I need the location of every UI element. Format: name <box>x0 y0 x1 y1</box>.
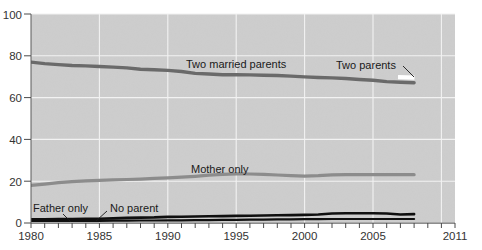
y-tick-label: 100 <box>3 9 22 21</box>
annotation-two-parents: Two parents <box>336 59 396 71</box>
y-tick-label: 60 <box>9 92 22 104</box>
y-tick-label: 80 <box>9 50 22 62</box>
y-tick-label: 20 <box>9 176 22 188</box>
annotation-two-married-parents: Two married parents <box>186 58 287 70</box>
x-tick-label: 1990 <box>155 230 181 242</box>
chart-container: 100 80 60 40 20 0 <box>0 0 482 250</box>
x-tick-label: 1995 <box>223 230 249 242</box>
annotation-father-only: Father only <box>33 202 89 214</box>
x-tick-label: 1985 <box>87 230 113 242</box>
y-tick-label: 40 <box>9 134 22 146</box>
y-tick-label: 0 <box>16 217 22 229</box>
plot-area-texture <box>31 14 455 223</box>
annotation-no-parent: No parent <box>110 202 158 214</box>
x-tick-label: 2005 <box>360 230 386 242</box>
x-tick-label: 2011 <box>443 230 468 242</box>
annotation-mother-only: Mother only <box>191 163 249 175</box>
x-tick-label: 2000 <box>292 230 318 242</box>
household-composition-line-chart: 100 80 60 40 20 0 <box>0 0 482 250</box>
x-tick-label: 1980 <box>18 230 44 242</box>
